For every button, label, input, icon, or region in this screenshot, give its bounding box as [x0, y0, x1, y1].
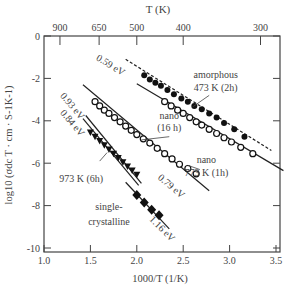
annotation-label: nano [197, 154, 216, 165]
plot-frame: 1.01.52.02.53.03.50-2-4-6-8-109006505004… [27, 22, 283, 266]
open-circle-marker [187, 115, 193, 121]
filled-circle-marker [171, 91, 177, 97]
top-tick-label: 400 [176, 22, 191, 33]
annotation-label: 1.16 eV [147, 213, 178, 244]
filled-circle-marker [221, 120, 227, 126]
top-tick-label: 500 [129, 22, 144, 33]
filled-circle-marker [241, 134, 247, 140]
open-circle-marker [199, 122, 205, 128]
filled-circle-marker [147, 76, 153, 82]
open-circle-marker [154, 145, 160, 151]
filled-circle-marker [214, 115, 220, 121]
open-circle-marker [134, 132, 140, 138]
filled-circle-marker [206, 110, 212, 116]
filled-circle-marker [199, 106, 205, 112]
annotation-label: 0.59 eV [94, 52, 127, 79]
filled-circle-marker [185, 99, 191, 105]
data-points [87, 72, 256, 220]
annotation-label: crystalline [88, 216, 130, 227]
open-circle-marker [140, 136, 146, 142]
x-tick-label: 2.5 [177, 255, 190, 266]
open-circle-marker [228, 139, 234, 145]
open-circle-marker [112, 115, 118, 121]
filled-circle-marker [152, 80, 158, 86]
y-axis-title: log10 (σdc T · cm · S-1K-1) [3, 85, 15, 205]
open-circle-marker [238, 144, 244, 150]
top-tick-label: 900 [52, 22, 67, 33]
open-circle-marker [180, 110, 186, 116]
filled-circle-marker [231, 126, 237, 132]
y-tick-label: -6 [32, 158, 40, 169]
y-tick-label: -4 [32, 115, 40, 126]
conductivity-arrhenius-chart: 1.01.52.02.53.03.50-2-4-6-8-109006505004… [0, 0, 290, 292]
annotation-label: single- [95, 201, 122, 212]
open-circle-marker [250, 151, 256, 157]
annotation-label: 0.79 eV [156, 172, 188, 201]
filled-circle-marker [164, 87, 170, 93]
filled-circle-marker [141, 72, 147, 78]
open-circle-marker [123, 123, 129, 129]
y-tick-label: -10 [27, 243, 40, 254]
annotation-label: 973 K (6h) [59, 173, 103, 185]
open-circle-marker [162, 151, 168, 157]
open-circle-marker [162, 99, 168, 105]
top-tick-label: 300 [253, 22, 268, 33]
x-tick-label: 1.0 [38, 255, 51, 266]
open-circle-marker [117, 119, 123, 125]
y-tick-label: 0 [35, 31, 40, 42]
filled-circle-marker [178, 96, 184, 102]
open-circle-marker [147, 140, 153, 146]
x-tick-label: 3.5 [270, 255, 283, 266]
open-circle-marker [106, 110, 112, 116]
x-tick-label: 2.0 [131, 255, 144, 266]
y-tick-label: -8 [32, 200, 40, 211]
annotation-label: (16 h) [157, 122, 181, 134]
annotation-label: 473 K (2h) [194, 82, 238, 94]
x-tick-label: 1.5 [84, 255, 97, 266]
open-circle-marker [193, 119, 199, 125]
top-tick-label: 650 [92, 22, 107, 33]
open-circle-marker [214, 131, 220, 137]
top-axis-title: T (K) [146, 3, 171, 16]
open-circle-marker [168, 103, 174, 109]
x-tick-label: 3.0 [223, 255, 236, 266]
open-circle-marker [206, 126, 212, 132]
annotation-label: nano [160, 110, 179, 121]
filled-circle-marker [158, 83, 164, 89]
open-circle-marker [176, 161, 182, 167]
y-tick-label: -2 [32, 73, 40, 84]
open-circle-marker [221, 135, 227, 141]
open-circle-marker [128, 127, 134, 133]
leader-line [100, 153, 107, 161]
open-circle-marker [169, 156, 175, 162]
bottom-axis-title: 1000/T (1/K) [132, 273, 188, 285]
annotation-label: 773 K (1h) [184, 167, 228, 179]
leader-line [192, 95, 209, 107]
annotation-label: amorphous [193, 69, 238, 80]
